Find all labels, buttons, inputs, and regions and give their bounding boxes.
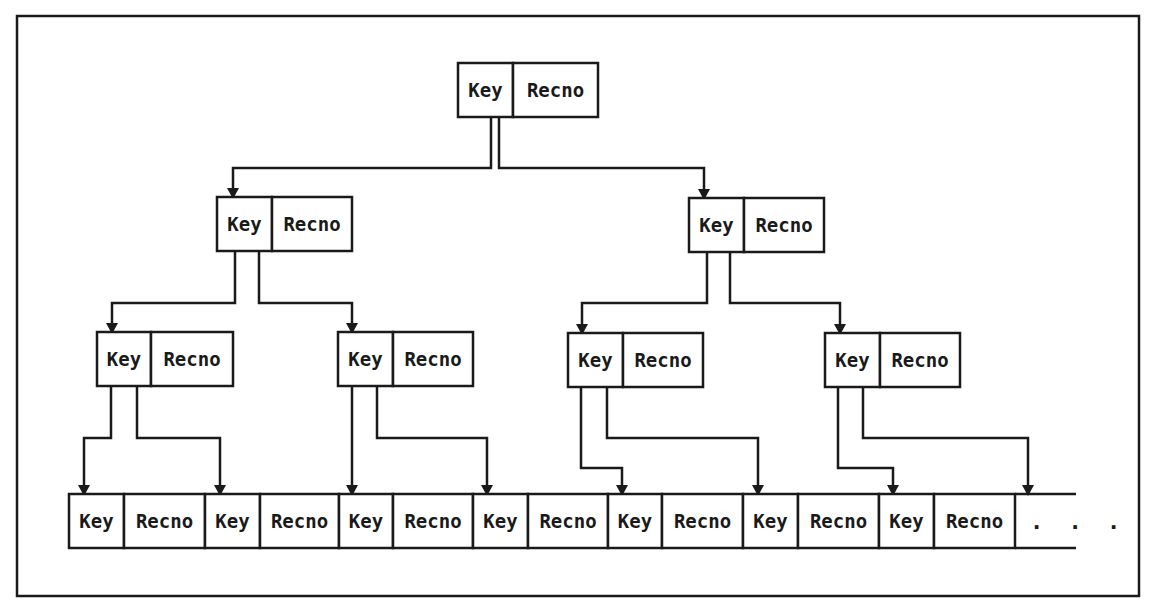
- recno-field-label: Recno: [283, 213, 340, 235]
- key-field-label: Key: [348, 348, 382, 370]
- key-field-label: Key: [227, 213, 261, 235]
- pointer-edge-from-L2-c: [581, 387, 622, 494]
- pointer-edge-from-L1-a: [112, 251, 235, 332]
- leaf-recno-field-label: Recno: [271, 510, 328, 532]
- btree-index-diagram: KeyRecnoKeyRecnoKeyRecnoKeyRecnoKeyRecno…: [0, 0, 1156, 608]
- leaf-key-field-label: Key: [889, 510, 923, 532]
- leaf-recno-field-label: Recno: [674, 510, 731, 532]
- pointer-edge-from-L2-d: [838, 387, 893, 494]
- tree-node-root: KeyRecno: [458, 63, 598, 117]
- leaf-key-field-label: Key: [79, 510, 113, 532]
- recno-field-label: Recno: [163, 348, 220, 370]
- key-field-label: Key: [699, 214, 733, 236]
- tree-node-L2-b: KeyRecno: [338, 332, 473, 386]
- leaf-recno-field-label: Recno: [136, 510, 193, 532]
- leaf-key-field-label: Key: [618, 510, 652, 532]
- key-field-label: Key: [468, 79, 502, 101]
- leaf-key-field-label: Key: [483, 510, 517, 532]
- tree-node-L1-a: KeyRecno: [217, 197, 352, 251]
- tree-node-L2-a: KeyRecno: [97, 332, 233, 386]
- continuation-ellipsis: . . .: [1030, 509, 1126, 534]
- leaf-recno-field-label: Recno: [539, 510, 596, 532]
- pointer-edge-from-root: [499, 117, 704, 198]
- pointer-edge-from-L1-b: [582, 252, 707, 333]
- tree-node-L1-b: KeyRecno: [689, 198, 824, 252]
- leaf-recno-field-label: Recno: [946, 510, 1003, 532]
- leaf-row: KeyRecnoKeyRecnoKeyRecnoKeyRecnoKeyRecno…: [69, 494, 1126, 548]
- pointer-edge-from-L2-d: [863, 387, 1028, 494]
- tree-node-L2-d: KeyRecno: [825, 333, 960, 387]
- leaf-recno-field-label: Recno: [810, 510, 867, 532]
- pointer-edge-from-L2-b: [377, 386, 487, 494]
- pointer-edge-from-L2-a: [137, 386, 220, 494]
- tree-nodes: KeyRecnoKeyRecnoKeyRecnoKeyRecnoKeyRecno…: [97, 63, 960, 387]
- leaf-key-field-label: Key: [215, 510, 249, 532]
- leaf-key-field-label: Key: [753, 510, 787, 532]
- recno-field-label: Recno: [404, 348, 461, 370]
- recno-field-label: Recno: [634, 349, 691, 371]
- leaf-key-field-label: Key: [349, 510, 383, 532]
- recno-field-label: Recno: [527, 79, 584, 101]
- tree-edges: [78, 117, 1034, 496]
- key-field-label: Key: [835, 349, 869, 371]
- key-field-label: Key: [107, 348, 141, 370]
- pointer-edge-from-L2-c: [607, 387, 758, 494]
- tree-node-L2-c: KeyRecno: [568, 333, 703, 387]
- pointer-edge-from-root: [233, 117, 491, 197]
- leaf-recno-field-label: Recno: [404, 510, 461, 532]
- pointer-edge-from-L1-b: [730, 252, 840, 333]
- key-field-label: Key: [578, 349, 612, 371]
- pointer-edge-from-L1-a: [259, 251, 352, 332]
- recno-field-label: Recno: [891, 349, 948, 371]
- recno-field-label: Recno: [755, 214, 812, 236]
- pointer-edge-from-L2-a: [84, 386, 111, 494]
